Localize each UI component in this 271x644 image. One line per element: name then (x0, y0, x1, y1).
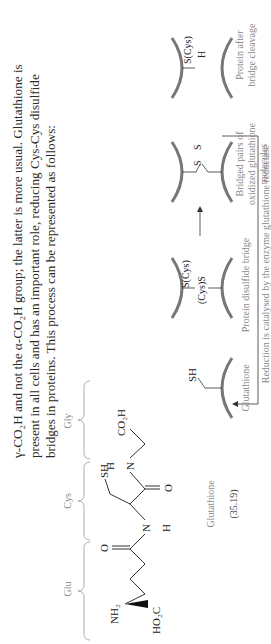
label-protein-after: Protein after bridge cleavage (234, 10, 258, 100)
atom-o2: O (162, 484, 174, 492)
protein-arcs (172, 38, 232, 418)
bridge-top: (Cys)S (196, 276, 208, 304)
atom-h1: H (160, 524, 172, 532)
residue-braces (78, 381, 90, 640)
gsh-sh: SH (186, 368, 198, 382)
atom-nh2: NH₂ (108, 604, 120, 624)
atom-n1: N (140, 524, 152, 532)
after-s: S(Cys) (182, 36, 194, 64)
reduction-note: Reduction is catalysed by the enzyme glu… (260, 134, 271, 394)
label-protein-bridge: Protein disulfide bridge (240, 230, 252, 340)
atom-h2: H (104, 462, 116, 470)
bridge-s2: S (192, 144, 204, 150)
rotated-page: γ-CO₂H and not the α-CO₂H group; the lat… (0, 0, 271, 644)
after-h: H (196, 51, 208, 58)
bridge-s1: S (192, 160, 204, 166)
structure-caption: Glutathione (205, 464, 217, 544)
atom-co2h: CO₂H (115, 409, 127, 436)
atom-n2: N (124, 462, 136, 470)
structure-number: (35.19) (228, 464, 240, 544)
bridge-bottom: S(Cys) (180, 260, 192, 288)
label-glutathione: Glutathione (240, 350, 252, 426)
residue-gly: Gly (62, 406, 74, 436)
atom-ho2c: HO₂C (150, 607, 162, 634)
residue-cys: Cys (62, 486, 74, 516)
glutathione-skeleton (105, 429, 160, 604)
diagram-graphics (0, 0, 271, 644)
residue-glu: Glu (62, 574, 74, 604)
atom-o1: O (98, 544, 110, 552)
